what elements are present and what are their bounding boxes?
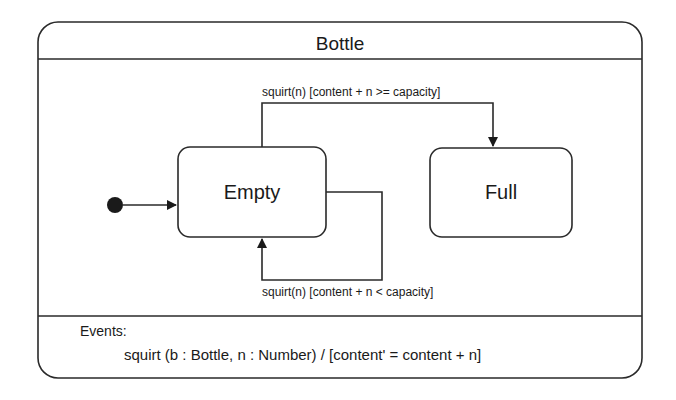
event-item: squirt (b : Bottle, n : Number) / [conte… bbox=[124, 346, 481, 363]
events-heading: Events: bbox=[80, 323, 127, 339]
state-full[interactable]: Full bbox=[430, 148, 572, 237]
state-full-label: Full bbox=[485, 181, 517, 203]
transition-empty-to-full-label: squirt(n) [content + n >= capacity] bbox=[262, 85, 440, 99]
initial-state-dot-icon bbox=[107, 197, 123, 213]
transition-empty-self-label: squirt(n) [content + n < capacity] bbox=[262, 285, 433, 299]
state-empty-label: Empty bbox=[224, 181, 281, 203]
state-diagram: Bottle Empty Full squirt(n) [content + n… bbox=[0, 0, 676, 400]
state-empty[interactable]: Empty bbox=[178, 147, 326, 237]
container-title: Bottle bbox=[316, 33, 365, 54]
